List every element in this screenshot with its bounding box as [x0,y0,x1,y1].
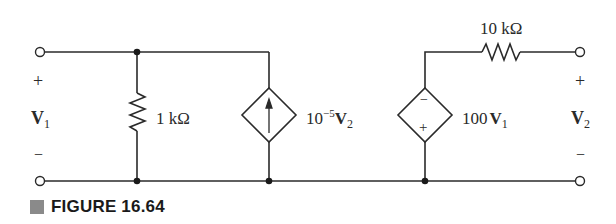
figure-caption: FIGURE 16.64 [30,197,165,217]
port2-minus: − [576,146,585,163]
port1-minus: − [34,146,43,163]
caption-square-icon [30,200,44,214]
shunt-resistor-label: 1 kΩ [156,109,190,128]
terminal-port2-bottom [576,177,585,186]
terminal-port1-top [36,48,45,57]
arrow-head-icon [266,99,272,108]
circuit-diagram: + V1 − 1 kΩ 10−5V2 − + 100V1 10 kΩ + V2 … [0,0,616,224]
voltage-source-label: 100V1 [462,109,508,131]
caption-text: FIGURE 16.64 [51,197,165,217]
voltage-source-plus-sign: + [419,119,427,135]
series-resistor-zigzag [482,44,520,60]
port2-voltage-label: V2 [571,108,590,131]
terminal-port2-top [576,48,585,57]
shunt-resistor-zigzag [130,93,145,131]
voltage-source-minus-sign: − [420,92,428,107]
series-resistor-label: 10 kΩ [480,19,522,38]
node-dot [134,49,141,56]
current-source-label: 10−5V2 [306,107,353,131]
node-dot [422,178,429,185]
terminal-port1-bottom [36,177,45,186]
voltage-source-top-wire [425,52,482,88]
port2-plus: + [575,71,585,91]
port1-voltage-label: V1 [31,108,50,131]
port1-plus: + [33,71,43,91]
node-dot [134,178,141,185]
node-dot [266,178,273,185]
